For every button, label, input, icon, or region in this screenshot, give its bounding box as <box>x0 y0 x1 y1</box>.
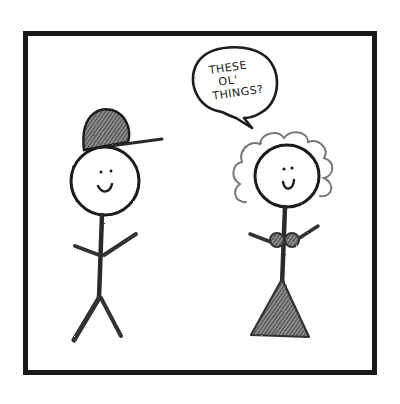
speech-bubble-text: THESE OL' THINGS? <box>208 57 264 103</box>
boy-eye-right <box>110 170 113 173</box>
character-boy <box>71 109 162 340</box>
boy-arm-right <box>104 234 136 255</box>
girl-eye-left <box>282 167 285 170</box>
comic-scene <box>0 0 400 404</box>
character-girl <box>233 132 332 337</box>
girl-head <box>255 145 319 207</box>
top-right-cup <box>285 233 299 247</box>
boy-arm-left <box>75 246 99 255</box>
boy-eye-left <box>100 171 103 174</box>
boy-head <box>71 147 139 215</box>
girl-eye-right <box>290 166 293 169</box>
girl-smile <box>283 180 294 189</box>
triangle-skirt <box>251 279 309 337</box>
boy-smile <box>98 184 112 191</box>
girl-body <box>282 207 285 285</box>
top-left-cup <box>270 233 284 247</box>
boy-leg-right <box>101 298 121 336</box>
boy-leg-left <box>74 298 99 340</box>
